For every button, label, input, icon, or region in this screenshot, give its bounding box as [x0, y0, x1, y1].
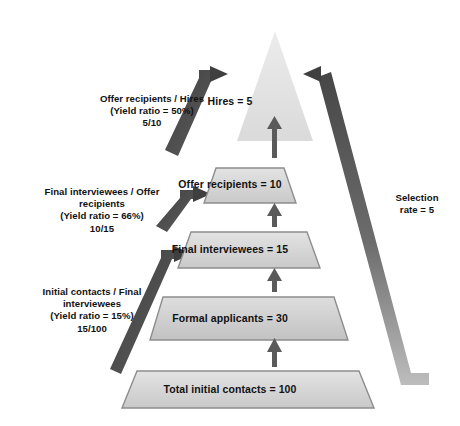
yield-note-line-2: (Yield ratio = 50%): [66, 105, 238, 117]
flow-arrow-contacts-to-applicants: [267, 338, 282, 367]
yield-note-line-1: Final interviewees / Offer: [20, 186, 184, 198]
selection-rate-note: Selection rate = 5: [378, 192, 456, 216]
level-shape-offer-recipients: [204, 168, 296, 203]
selection-rate-line-2: rate = 5: [378, 204, 456, 216]
yield-note-line-3: (Yield ratio = 15%): [12, 310, 172, 322]
yield-note-line-3: 5/10: [66, 117, 238, 129]
yield-note-line-3: (Yield ratio = 66%): [20, 210, 184, 222]
flow-arrow-applicants-to-final: [267, 268, 282, 292]
yield-note-line-4: 15/100: [12, 323, 172, 335]
level-shape-formal-applicants: [150, 297, 348, 340]
yield-note-line-1: Initial contacts / Final: [12, 286, 172, 298]
yield-note-offer-to-hires: Offer recipients / Hires (Yield ratio = …: [66, 93, 238, 130]
level-shape-final-interviewees: [178, 232, 320, 268]
level-shape-total-contacts: [122, 371, 374, 408]
yield-note-line-1: Offer recipients / Hires: [66, 93, 238, 105]
funnel-diagram: Hires = 5 Offer recipients = 10 Final in…: [0, 0, 460, 426]
selection-rate-line-1: Selection: [378, 192, 456, 204]
yield-note-line-4: 10/15: [20, 223, 184, 235]
yield-note-line-2: interviewees: [12, 298, 172, 310]
yield-note-final-to-offer: Final interviewees / Offer recipients (Y…: [20, 186, 184, 235]
yield-note-contacts-to-final: Initial contacts / Final interviewees (Y…: [12, 286, 172, 335]
flow-arrow-final-to-offer: [267, 203, 282, 227]
yield-note-line-2: recipients: [20, 198, 184, 210]
